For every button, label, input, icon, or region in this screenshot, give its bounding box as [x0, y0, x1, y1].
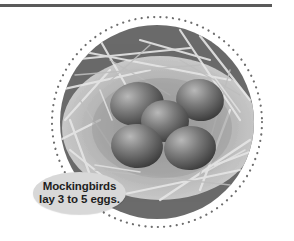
caption-callout: Mockingbirds lay 3 to 5 eggs. [33, 172, 126, 214]
caption-line-1: Mockingbirds [43, 180, 117, 193]
caption-line-2: lay 3 to 5 eggs. [39, 193, 120, 206]
